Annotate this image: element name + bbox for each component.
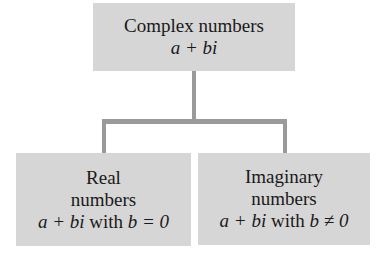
node-formula: a + bi [38,211,85,232]
connector-stem [192,71,196,123]
node-title-line2: numbers [71,189,136,211]
node-condition: b = 0 [128,211,169,232]
node-title-line2: numbers [251,188,316,210]
connector-left [102,119,106,153]
node-condition-line: a + bi with b ≠ 0 [220,210,349,232]
real-numbers-node: Real numbers a + bi with b = 0 [16,153,191,246]
node-title-line1: Imaginary [245,166,323,188]
node-condition-line: a + bi with b = 0 [38,211,169,233]
complex-numbers-node: Complex numbers a + bi [93,3,295,71]
node-condition: b ≠ 0 [309,210,348,231]
node-title: Complex numbers [124,15,264,37]
node-title-line1: Real [86,167,121,189]
node-formula: a + bi [220,210,267,231]
connector-bar [102,119,287,124]
node-condition-text: with [266,210,309,231]
node-condition-text: with [85,211,128,232]
node-formula: a + bi [171,37,218,59]
imaginary-numbers-node: Imaginary numbers a + bi with b ≠ 0 [198,153,370,245]
connector-right [283,119,287,153]
